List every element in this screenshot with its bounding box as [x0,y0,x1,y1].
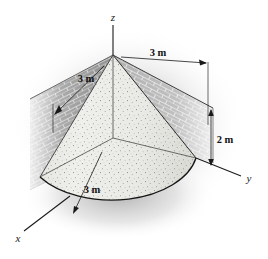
dimension-cone-radius-label: 3 m [84,184,101,195]
x-axis-label: x [15,232,21,244]
engineering-figure: z y x 3 m 3 m 2 m 3 m [0,0,268,259]
z-axis-label: z [110,11,116,23]
y-axis-label: y [246,172,252,184]
dimension-wall-height-label: 2 m [217,134,234,145]
figure-canvas: z y x 3 m 3 m 2 m 3 m [0,0,268,259]
dimension-left-wall-width-label: 3 m [78,73,95,84]
dimension-top-wall-width-label: 3 m [150,47,167,58]
